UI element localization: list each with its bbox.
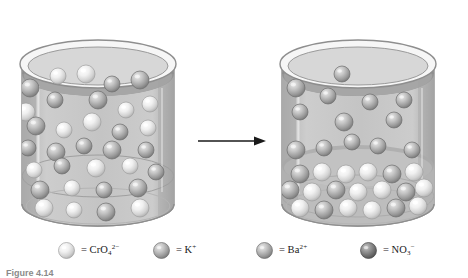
ion-sphere-medium (387, 199, 405, 217)
right-beaker (272, 16, 444, 228)
ion-sphere-pale (291, 199, 309, 217)
sphere-highlight (93, 95, 98, 99)
ion-sphere-medium (291, 165, 309, 183)
sphere-highlight (337, 69, 342, 73)
ion-sphere-pale (409, 197, 427, 215)
ion-sphere-medium (54, 158, 70, 174)
figure-caption: Figure 4.14 (6, 268, 54, 278)
right-arrow-icon (196, 134, 268, 148)
sphere-highlight (391, 203, 396, 207)
sphere-highlight (115, 127, 120, 131)
ion-sphere-medium (344, 134, 360, 150)
sphere-highlight (409, 167, 414, 171)
sphere-highlight (319, 205, 324, 209)
sphere-highlight (135, 75, 140, 79)
ion-sphere-medium (335, 113, 353, 131)
medium-sphere-icon (153, 242, 170, 259)
legend-item-label: = K+ (176, 244, 196, 256)
ion-sphere-medium (334, 66, 350, 82)
figure-root: = CrO42−= K+= Ba2+= NO3− Figure 4.14 (0, 0, 468, 278)
sphere-highlight (377, 185, 382, 189)
ion-sphere-medium (112, 124, 128, 140)
ion-sphere-pale (66, 202, 82, 218)
sphere-highlight (373, 141, 378, 145)
ion-sphere-medium (404, 142, 420, 158)
pale-sphere-icon (58, 242, 75, 259)
sphere-highlight (125, 161, 130, 165)
ion-sphere-medium (315, 201, 333, 219)
sphere-highlight (50, 95, 55, 99)
ion-sphere-pale (122, 158, 138, 174)
ion-sphere-medium (76, 138, 92, 154)
ion-sphere-medium (47, 92, 63, 108)
ion-sphere-pale (405, 163, 423, 181)
ion-sphere-pale (337, 165, 355, 183)
ion-sphere-pale (64, 180, 80, 196)
sphere-highlight (57, 161, 62, 165)
legend-item: = NO3− (360, 236, 415, 264)
ion-sphere-pale (140, 120, 156, 136)
ion-sphere-pale (35, 199, 53, 217)
sphere-highlight (91, 163, 96, 167)
sphere-highlight (413, 201, 418, 205)
sphere-highlight (285, 185, 290, 189)
sphere-highlight (317, 167, 322, 171)
legend: = CrO42−= K+= Ba2+= NO3− (0, 236, 468, 264)
ion-sphere-medium (103, 141, 121, 159)
legend-item-label: = CrO42− (81, 244, 120, 257)
sphere-highlight (419, 183, 424, 187)
ion-sphere-medium (396, 92, 412, 108)
sphere-highlight (339, 117, 344, 121)
ion-sphere-medium (31, 181, 49, 199)
sphere-highlight (295, 169, 300, 173)
ion-sphere-medium (21, 79, 39, 97)
ion-sphere-medium (397, 183, 415, 201)
ion-sphere-pale (303, 183, 321, 201)
sphere-highlight (295, 107, 300, 111)
legend-item-label: = NO3− (383, 244, 415, 257)
ion-sphere-pale (415, 179, 433, 197)
ion-sphere-medium (97, 203, 115, 221)
sphere-highlight (29, 165, 34, 169)
sphere-highlight (407, 145, 412, 149)
sphere-highlight (343, 203, 348, 207)
sphere-highlight (291, 83, 296, 87)
ion-sphere-medium (138, 142, 154, 158)
ion-sphere-pale (349, 183, 367, 201)
sphere-highlight (81, 69, 86, 73)
sphere-highlight (135, 203, 140, 207)
legend-item-label: = Ba2+ (279, 244, 307, 256)
sphere-highlight (319, 143, 324, 147)
ion-sphere-medium (148, 164, 164, 180)
sphere-highlight (133, 183, 138, 187)
ion-sphere-medium (89, 91, 107, 109)
ion-sphere-medium (383, 165, 401, 183)
sphere-highlight (69, 205, 74, 209)
ion-sphere-pale (77, 65, 95, 83)
sphere-highlight (353, 187, 358, 191)
sphere-highlight (23, 143, 28, 147)
sphere-highlight (347, 137, 352, 141)
sphere-highlight (389, 115, 394, 119)
sphere-highlight (401, 187, 406, 191)
sphere-highlight (145, 99, 150, 103)
sphere-highlight (59, 125, 64, 129)
ion-sphere-medium (27, 117, 45, 135)
ion-sphere-medium (370, 138, 386, 154)
sphere-highlight (79, 141, 84, 145)
dark-sphere-icon (360, 242, 377, 259)
sphere-highlight (39, 203, 44, 207)
sphere-highlight (143, 123, 148, 127)
ion-sphere-medium (320, 88, 336, 104)
ion-sphere-medium (20, 140, 36, 156)
ion-sphere-medium (104, 76, 120, 92)
sphere-highlight (107, 79, 112, 83)
ion-sphere-pale (373, 181, 391, 199)
sphere-highlight (101, 207, 106, 211)
sphere-highlight (399, 95, 404, 99)
ion-sphere-pale (363, 201, 381, 219)
ion-sphere-pale (87, 159, 105, 177)
sphere-highlight (99, 185, 104, 189)
medium-sphere-icon (256, 242, 273, 259)
ion-sphere-medium (287, 141, 305, 159)
